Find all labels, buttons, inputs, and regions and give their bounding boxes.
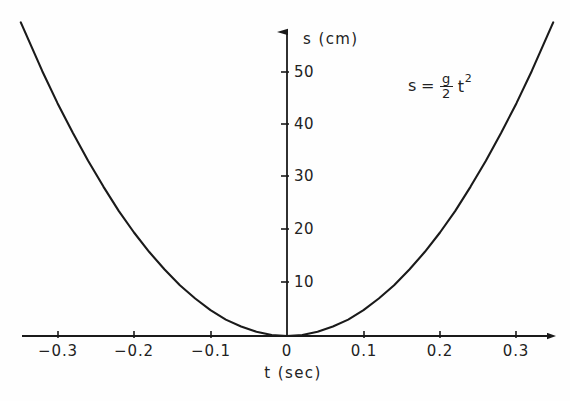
xtick-label-pos03: 0.3 — [503, 344, 530, 359]
xtick-label-neg01: −0.1 — [191, 344, 231, 359]
xtick-label-pos02: 0.2 — [427, 344, 454, 359]
ytick-label-50: 50 — [294, 65, 314, 80]
equation-variable: t — [458, 77, 465, 96]
equation-fraction: g 2 — [440, 72, 453, 100]
xtick-label-neg02: −0.2 — [114, 344, 154, 359]
equation-exponent: 2 — [465, 72, 473, 85]
equation-equals: = — [421, 78, 435, 94]
xtick-label-neg03: −0.3 — [38, 344, 78, 359]
ytick-label-20: 20 — [294, 222, 314, 237]
ytick-label-40: 40 — [294, 117, 314, 132]
xtick-label-pos01: 0.1 — [351, 344, 378, 359]
x-axis-title: t (sec) — [264, 366, 321, 381]
figure-canvas: −0.3 −0.2 −0.1 0 0.1 0.2 0.3 10 20 30 40… — [0, 0, 570, 401]
equation-denominator: 2 — [440, 86, 453, 101]
equation-numerator: g — [440, 72, 453, 86]
plot-area — [0, 0, 570, 401]
xtick-label-zero: 0 — [282, 344, 292, 359]
y-axis-title: s (cm) — [303, 32, 359, 47]
ytick-label-10: 10 — [294, 275, 314, 290]
equation-annotation: s = g 2 t2 — [408, 72, 472, 100]
equation-variable-group: t2 — [458, 77, 472, 95]
equation-lhs: s — [408, 78, 417, 94]
ytick-label-30: 30 — [294, 169, 314, 184]
